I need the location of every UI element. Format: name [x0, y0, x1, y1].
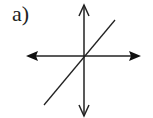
- diagonal-line: [44, 20, 115, 105]
- coordinate-diagram: [0, 0, 153, 118]
